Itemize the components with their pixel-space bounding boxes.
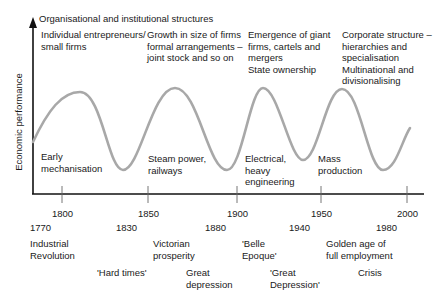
downswing-label-3: 'Great Depression' (270, 267, 320, 290)
technology-label-4: Mass production (318, 153, 362, 176)
phase-year-1940: 1940 (289, 222, 310, 234)
upswing-label-1: Industrial Revolution (30, 238, 75, 261)
technology-label-1: Early mechanisation (41, 151, 102, 174)
tick-label-2000: 2000 (397, 208, 418, 220)
structures-heading: Organisational and institutional structu… (39, 13, 213, 25)
technology-label-3: Electrical, heavy engineering (245, 153, 295, 188)
y-axis-arrow-icon (29, 17, 37, 28)
y-axis-label: Economic performance (13, 73, 24, 171)
tick-label-1900: 1900 (227, 208, 248, 220)
downswing-label-4: Crisis (358, 267, 382, 279)
tick-label-1800: 1800 (52, 208, 73, 220)
phase-year-1770: 1770 (30, 222, 51, 234)
upswing-label-3: 'Belle Epoque' (242, 238, 277, 261)
phase-year-1980: 1980 (376, 222, 397, 234)
structure-label-4: Corporate structure – hierarchies and sp… (342, 29, 432, 87)
upswing-label-2: Victorian prosperity (153, 238, 195, 261)
tick-label-1950: 1950 (311, 208, 332, 220)
structure-label-3: Emergence of giant firms, cartels and me… (248, 29, 330, 75)
downswing-label-2: Great depression (186, 267, 232, 290)
downswing-label-1: 'Hard times' (97, 267, 147, 279)
phase-year-1830: 1830 (116, 222, 137, 234)
structure-label-1: Individual entrepreneurs/ small firms (41, 29, 146, 52)
tick-label-1850: 1850 (138, 208, 159, 220)
structure-label-2: Growth in size of firms formal arrangeme… (147, 29, 243, 64)
phase-year-1880: 1880 (205, 222, 226, 234)
technology-label-2: Steam power, railways (148, 153, 206, 176)
upswing-label-4: Golden age of full employment (326, 238, 393, 261)
